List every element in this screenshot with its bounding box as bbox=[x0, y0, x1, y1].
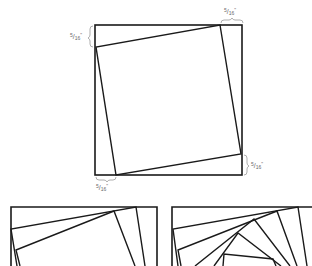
brace-bottom-left bbox=[96, 177, 116, 182]
dimension-label-right-bottom: 5/16" bbox=[251, 162, 263, 170]
outer-square bbox=[95, 25, 242, 175]
dimension-label-bottom-left: 5/16" bbox=[96, 184, 108, 192]
main-square-diagram bbox=[88, 18, 249, 182]
multiple-rounds-diagram bbox=[172, 207, 312, 266]
brace-top-right bbox=[221, 18, 243, 23]
second-round-diagram bbox=[11, 207, 157, 266]
brace-right-bottom bbox=[244, 155, 249, 175]
rotated-inner-square bbox=[96, 25, 241, 175]
brace-left-top bbox=[88, 26, 93, 47]
dimension-label-left-top: 5/16" bbox=[70, 33, 82, 41]
dimension-label-top-right: 5/16" bbox=[224, 8, 236, 16]
diagram-canvas bbox=[0, 0, 312, 266]
